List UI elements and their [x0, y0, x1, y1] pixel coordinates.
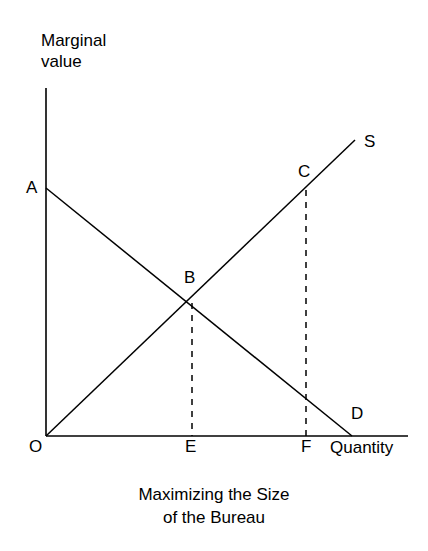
supply-curve	[46, 140, 355, 436]
diagram-canvas	[0, 0, 428, 551]
point-label-d: D	[351, 404, 363, 424]
point-label-e: E	[185, 437, 196, 457]
point-label-s: S	[364, 132, 375, 152]
economics-diagram: Marginalvalue Quantity A B C D S O E F M…	[0, 0, 428, 551]
caption-line-1: Maximizing the Size	[0, 483, 428, 506]
figure-caption: Maximizing the Size of the Bureau	[0, 483, 428, 529]
y-axis-title-line-1: Marginal	[41, 31, 106, 50]
y-axis-title: Marginalvalue	[41, 30, 106, 72]
point-label-origin: O	[29, 437, 42, 457]
point-label-f: F	[301, 437, 311, 457]
point-label-b: B	[184, 268, 195, 288]
caption-line-2: of the Bureau	[0, 506, 428, 529]
point-label-c: C	[298, 162, 310, 182]
point-label-a: A	[26, 178, 37, 198]
y-axis-title-line-2: value	[41, 52, 82, 71]
x-axis-title: Quantity	[330, 437, 393, 458]
